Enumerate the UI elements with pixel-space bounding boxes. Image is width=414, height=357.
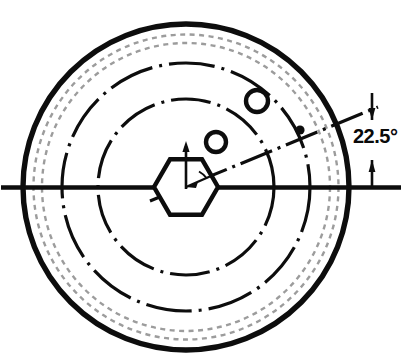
drawing-svg: 22.5° (0, 0, 414, 357)
bolt-hole-outer (246, 90, 268, 112)
bolt-hole-inner (206, 132, 226, 152)
angle-dimension-label: 22.5° (353, 125, 398, 147)
bolt-location-dot (295, 125, 304, 134)
technical-drawing-canvas: 22.5° (0, 0, 414, 357)
